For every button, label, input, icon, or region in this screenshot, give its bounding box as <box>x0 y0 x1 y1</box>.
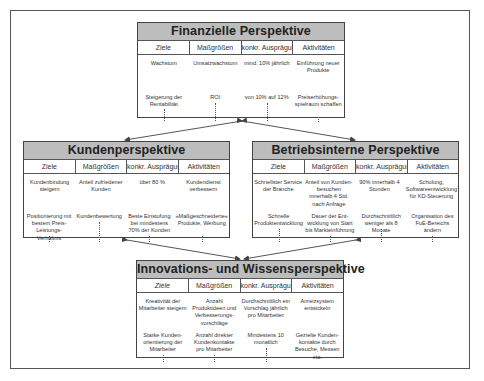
dotted-connector <box>149 236 150 242</box>
column-headers: Ziele Maßgrößen konkr. Ausprägung Aktivi… <box>253 160 458 174</box>
cell-activity: Kundendienst verbessern <box>178 179 229 213</box>
innovation-perspective-title: Innovations- und Wissensperspektive <box>137 261 343 279</box>
internal-perspective-box: Betriebsinterne Perspektive Ziele Maßgrö… <box>252 141 459 238</box>
dotted-connector <box>279 229 280 242</box>
header-aktivitaeten: Aktivitäten <box>408 160 459 173</box>
header-massgroessen: Maßgrößen <box>76 160 128 173</box>
cell-measure: Anzahl Produktideen und Verbesserungs-vo… <box>189 298 241 332</box>
header-ziele: Ziele <box>138 41 190 54</box>
cell-activity: Anreizsystem entwickeln <box>292 298 344 332</box>
cell-activity: Einführung neuer Produkte <box>293 60 345 94</box>
cell-target: Durchschnittlich ein Vorschlag jährlich … <box>240 298 292 332</box>
column-headers: Ziele Maßgrößen konkr. Ausprägung Aktivi… <box>138 41 344 55</box>
table-row: Steigerung der Rentabilität ROI von 10% … <box>138 94 344 130</box>
header-auspraegung: konkr. Ausprägung <box>127 160 179 173</box>
cell-goal: Wachstum <box>138 60 190 94</box>
header-massgroessen: Maßgrößen <box>190 41 242 54</box>
cell-goal: Steigerung der Rentabilität <box>145 94 182 107</box>
header-auspraegung: konkr. Ausprägung <box>241 279 293 292</box>
cell-activity: Gezielte Kunden-kontakte durch Besuche, … <box>295 332 339 360</box>
cell-measure: Anteil von Kunden-besuchen innerhalb 4 S… <box>304 179 355 213</box>
table-row: Schnellster Service der Branche Anteil v… <box>253 179 458 213</box>
header-auspraegung: konkr. Ausprägung <box>242 41 294 54</box>
table-row: Kundenbindung steigern Anteil zufriedene… <box>24 179 229 213</box>
cell-goal: Schnelle Produktentwicklung <box>254 213 303 226</box>
cell-activity: Organisation des FuE-Bereichs ändern <box>411 213 453 233</box>
dotted-connector <box>267 103 268 121</box>
dotted-connector <box>99 222 100 242</box>
cell-activity: Preiserhöhungs-spielraum schaffen <box>295 94 342 107</box>
cell-measure: Dauer der Ent-wicklung von Start bis Mar… <box>305 213 354 233</box>
customer-perspective-title: Kundenperspektive <box>24 142 229 160</box>
dotted-connector <box>215 103 216 121</box>
header-aktivitaeten: Aktivitäten <box>293 41 344 54</box>
cell-target: 90% innerhalb 4 Stunden <box>354 179 405 213</box>
innovation-perspective-box: Innovations- und Wissensperspektive Ziel… <box>136 260 344 358</box>
cell-measure: ROI <box>210 94 220 100</box>
table-row: Wachstum Umsatzwachstum mind. 10% jährli… <box>138 60 344 94</box>
dotted-connector <box>266 348 267 362</box>
column-headers: Ziele Maßgrößen konkr. Ausprägung Aktivi… <box>24 160 229 174</box>
cell-measure: Anteil zufriedener Kunden <box>75 179 126 213</box>
cell-goal: Kreativität der Mitarbeiter steigern <box>137 298 189 332</box>
cell-measure: Umsatzwachstum <box>190 60 242 94</box>
header-aktivitaeten: Aktivitäten <box>179 160 230 173</box>
table-row: Starke Kunden-orientierung der Mitarbeit… <box>137 332 343 368</box>
cell-activity: »Maßgeschneiderte« Produkte, Werbung <box>175 213 228 226</box>
header-auspraegung: konkr. Ausprägung <box>356 160 408 173</box>
dotted-connector <box>49 236 50 242</box>
cell-target: Beste Einstufung bei mindestens 70% der … <box>128 213 170 233</box>
cell-goal: Starke Kunden-orientierung der Mitarbeit… <box>143 332 182 352</box>
cell-goal: Kundenbindung steigern <box>24 179 75 213</box>
header-aktivitaeten: Aktivitäten <box>292 279 343 292</box>
table-row: Schnelle Produktentwicklung Dauer der En… <box>253 213 458 249</box>
dotted-connector <box>163 355 164 362</box>
header-ziele: Ziele <box>253 160 305 173</box>
internal-perspective-title: Betriebsinterne Perspektive <box>253 142 458 160</box>
dotted-connector <box>318 117 319 122</box>
customer-perspective-box: Kundenperspektive Ziele Maßgrößen konkr.… <box>23 141 230 238</box>
cell-activity: Schulung, Softwareentwicklung für KD-Ste… <box>405 179 458 213</box>
header-ziele: Ziele <box>24 160 76 173</box>
dotted-connector <box>432 236 433 242</box>
cell-target: über 80 % <box>127 179 178 213</box>
table-row: Kreativität der Mitarbeiter steigern Anz… <box>137 298 343 332</box>
financial-perspective-box: Finanzielle Perspektive Ziele Maßgrößen … <box>137 22 345 118</box>
column-headers: Ziele Maßgrößen konkr. Ausprägung Aktivi… <box>137 279 343 293</box>
dotted-connector <box>381 229 382 242</box>
header-ziele: Ziele <box>137 279 189 292</box>
dotted-connector <box>214 355 215 362</box>
cell-target: Mindestens 10 monatlich <box>248 332 284 345</box>
cell-target: von 10% auf 12% <box>245 94 289 100</box>
financial-perspective-title: Finanzielle Perspektive <box>138 23 344 41</box>
header-massgroessen: Maßgrößen <box>305 160 357 173</box>
dotted-connector <box>164 109 165 121</box>
cell-measure: Kundenbewertung <box>77 213 122 219</box>
cell-target: mind. 10% jährlich <box>241 60 293 94</box>
table-row: Positionierung mit bestem Preis-Leistung… <box>24 213 229 249</box>
dotted-connector <box>330 236 331 242</box>
header-massgroessen: Maßgrößen <box>189 279 241 292</box>
dotted-connector <box>202 236 203 242</box>
cell-measure: Anzahl direkter Kundenkontakte pro Mitar… <box>194 332 234 352</box>
cell-goal: Schnellster Service der Branche <box>253 179 304 213</box>
